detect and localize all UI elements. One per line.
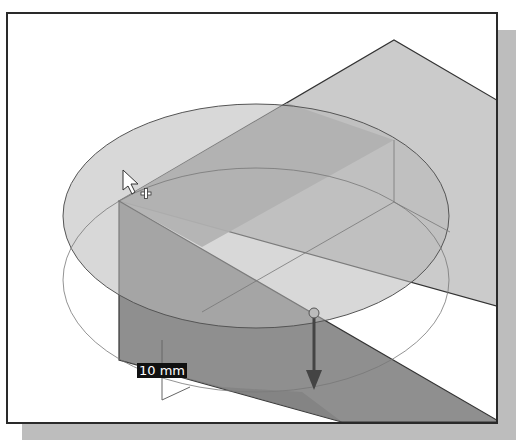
dimension-input-label[interactable]: 10 mm <box>137 363 187 378</box>
3d-scene[interactable] <box>8 14 496 422</box>
drag-handle-sphere-icon[interactable] <box>309 308 319 318</box>
sketch-circle-top[interactable] <box>63 104 449 328</box>
modeling-viewport[interactable]: 10 mm <box>6 12 498 424</box>
